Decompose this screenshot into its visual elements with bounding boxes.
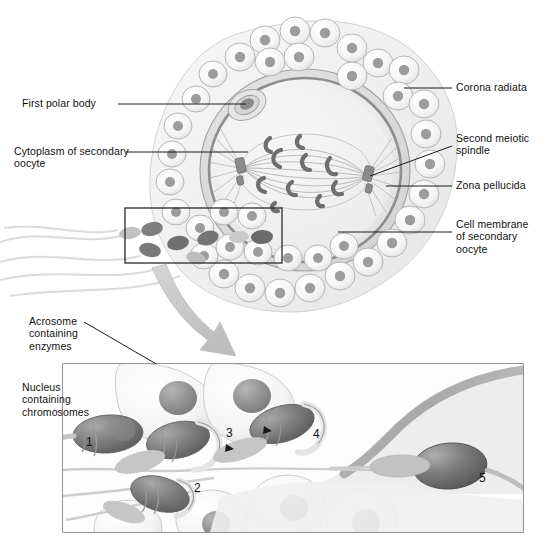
label-acrosome-containing-enzymes: Acrosome containing enzymes xyxy=(29,315,78,352)
lower-panel-illustration xyxy=(56,363,523,556)
label-second-meiotic-spindle: Second meiotic spindle xyxy=(456,132,529,157)
label-nucleus-containing-chromosomes: Nucleus containing chromosomes xyxy=(22,381,89,418)
sperm-number-5: 5 xyxy=(479,471,486,485)
sperm-number-4: 4 xyxy=(313,427,320,441)
label-cell-membrane-of-secondary-oocyte: Cell membrane of secondary oocyte xyxy=(456,218,529,255)
label-first-polar-body: First polar body xyxy=(22,97,96,109)
label-corona-radiata: Corona radiata xyxy=(456,81,527,93)
sperm-number-2: 2 xyxy=(194,481,201,495)
label-zona-pellucida: Zona pellucida xyxy=(456,179,526,191)
sperm-number-1: 1 xyxy=(86,435,93,449)
sperm-number-3: 3 xyxy=(226,426,233,440)
label-cytoplasm-of-secondary-oocyte: Cytoplasm of secondary oocyte xyxy=(14,145,129,170)
